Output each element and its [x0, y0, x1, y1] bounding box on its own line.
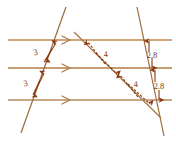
right-upper-measure-label: 2.8	[147, 50, 158, 60]
left-transversal	[21, 7, 66, 133]
left-upper-measure-label: 3	[32, 47, 38, 58]
transversals-group	[21, 7, 164, 136]
diagonal-transversal	[74, 32, 161, 118]
parallel-marks-group	[62, 36, 70, 104]
diagonal-lower-measure-label: 4	[133, 79, 139, 90]
right-lower-measure-label: 2.8	[154, 81, 165, 91]
geometry-figure: 3 3 4 4 2.8 2.8	[0, 0, 176, 142]
diagonal-upper-measure-label: 4	[103, 49, 109, 60]
geometry-diagram-canvas: 3 3 4 4 2.8 2.8	[0, 0, 176, 142]
left-lower-measure-label: 3	[22, 78, 28, 89]
left-lower-arrow-down	[33, 80, 40, 95]
diagonal-lower-arrow-right	[128, 84, 150, 104]
diagonal-measure-arrows	[88, 42, 150, 104]
left-upper-arrow-down	[46, 49, 52, 60]
